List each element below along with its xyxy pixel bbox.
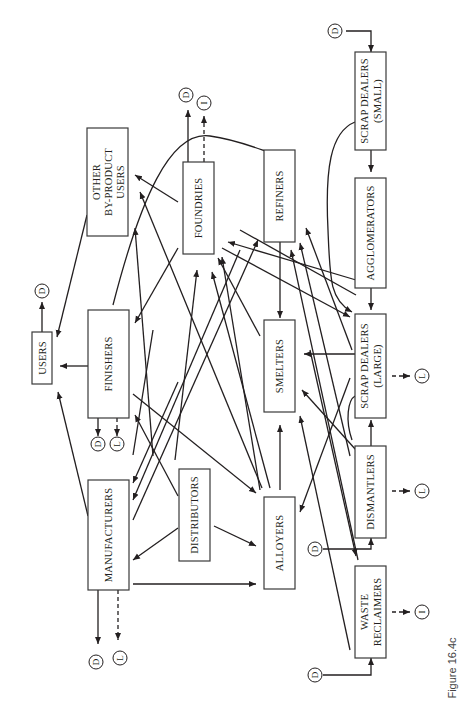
edge-scraplarge-to-alloyers — [300, 378, 350, 512]
node-scraplarge-label-2: (LARGE) — [372, 344, 384, 388]
edge-alloyers-to-manufacturers — [133, 250, 240, 500]
edge-dismantlers-curve — [348, 396, 355, 440]
edge-distributors-to-manufacturers — [133, 528, 178, 560]
terminal-dismantlers-l: L — [415, 484, 429, 498]
edge-smelters-to-foundries — [218, 258, 260, 336]
node-scrap-dealers-small: SCRAP DEALERS (SMALL) — [355, 52, 386, 150]
edge-to-foundries-1 — [175, 270, 197, 460]
edge-foundries-to-manufacturers — [133, 382, 178, 483]
terminal-scrapsmall-d: D — [328, 24, 342, 38]
node-scraplarge-label-1: SCRAP DEALERS — [359, 323, 370, 408]
node-distributors-label: DISTRIBUTORS — [189, 476, 200, 553]
terminal-waste-i: I — [415, 605, 429, 619]
node-other-by-product-users: OTHER BY-PRODUCT USERS — [87, 128, 128, 236]
edge-distributors-to-alloyers — [214, 526, 256, 546]
terminal-label: D — [93, 440, 103, 447]
terminal-label: L — [112, 441, 122, 447]
node-other-label-1: OTHER — [91, 164, 102, 200]
terminal-finishers-d: D — [91, 437, 105, 451]
node-manufacturers: MANUFACTURERS — [88, 480, 129, 590]
edge-dismantlers-to-refiners — [300, 243, 350, 456]
terminal-dismantlers-d: D — [308, 542, 322, 556]
terminal-waste-d: D — [308, 668, 322, 682]
terminal-foundries-i: I — [197, 96, 211, 110]
edge-manufacturers-to-users — [58, 392, 88, 516]
node-scrapsmall-label-2: (SMALL) — [372, 79, 384, 123]
node-other-label-3: USERS — [115, 165, 126, 199]
node-finishers-label: FINISHERS — [103, 337, 114, 392]
edge-line-finishers-manuf — [133, 330, 153, 455]
terminal-label: I — [199, 102, 209, 105]
edge-other-to-users — [57, 215, 87, 337]
terminal-scraplarge-l: L — [415, 369, 429, 383]
node-manufacturers-label: MANUFACTURERS — [103, 488, 114, 583]
node-refiners-label: REFINERS — [274, 170, 285, 221]
node-agglomerators: AGGLOMERATORS — [355, 178, 386, 288]
node-users: USERS — [32, 332, 52, 384]
node-smelters: SMELTERS — [264, 320, 295, 412]
terminal-label: L — [115, 655, 125, 661]
edge-distributors-to-finishers — [135, 415, 178, 496]
node-alloyers: ALLOYERS — [264, 497, 295, 589]
edge-d-to-dismantlers — [323, 538, 371, 549]
edge-alloyers-to-foundries-2 — [222, 257, 260, 490]
terminal-label: D — [310, 671, 320, 678]
terminal-label: L — [417, 373, 427, 379]
terminal-label: D — [91, 658, 101, 665]
node-waste-reclaimers: WASTE RECLAIMERS — [355, 566, 386, 658]
figure-caption: Figure 16.4c — [446, 637, 458, 699]
node-refiners: REFINERS — [264, 150, 295, 242]
node-dismantlers: DISMANTLERS — [355, 446, 386, 538]
edge-waste-to-smelters — [300, 416, 350, 650]
edge-scrapsmall-to-scraplarge — [327, 122, 355, 312]
terminal-label: D — [181, 91, 191, 98]
node-waste-label-1: WASTE — [359, 594, 370, 630]
node-dismantlers-label: DISMANTLERS — [365, 454, 376, 530]
node-finishers: FINISHERS — [88, 310, 129, 418]
node-users-label: USERS — [37, 341, 48, 375]
node-smelters-label: SMELTERS — [274, 339, 285, 393]
edge-alloyers-to-foundries — [212, 272, 270, 488]
edge-waste-to-refiners — [291, 250, 358, 560]
terminal-manufacturers-d: D — [89, 655, 103, 669]
edge-d-to-scrapsmall — [346, 31, 371, 52]
node-scrapsmall-label-1: SCRAP DEALERS — [359, 58, 370, 143]
terminal-manufacturers-l: L — [113, 651, 127, 665]
terminal-finishers-l: L — [110, 437, 124, 451]
edge-foundries-to-scraplarge — [222, 248, 350, 317]
terminal-label: I — [417, 611, 427, 614]
terminal-foundries-d: D — [179, 88, 193, 102]
node-waste-label-2: RECLAIMERS — [372, 578, 383, 647]
node-foundries-label: FOUNDRIES — [193, 178, 204, 239]
node-agglomerators-label: AGGLOMERATORS — [365, 185, 376, 280]
terminal-label: D — [310, 545, 320, 552]
node-foundries: FOUNDRIES — [183, 162, 214, 254]
material-flow-diagram: USERS OTHER BY-PRODUCT USERS FOUNDRIES R… — [0, 0, 464, 703]
node-other-label-2: BY-PRODUCT — [103, 148, 114, 216]
edge-d-to-waste — [323, 658, 371, 675]
terminal-label: D — [330, 27, 340, 34]
terminal-users-d: D — [35, 284, 49, 298]
node-scrap-dealers-large: SCRAP DEALERS (LARGE) — [355, 314, 386, 418]
terminal-label: L — [417, 488, 427, 494]
node-distributors: DISTRIBUTORS — [179, 469, 210, 561]
node-alloyers-label: ALLOYERS — [274, 515, 285, 571]
terminal-label: D — [37, 287, 47, 294]
